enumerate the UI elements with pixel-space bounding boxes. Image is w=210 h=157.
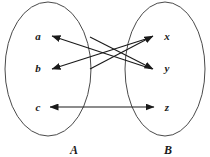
element-label-a: a xyxy=(35,31,41,42)
element-label-c: c xyxy=(36,102,41,113)
set-label-A: A xyxy=(70,144,78,156)
element-label-y: y xyxy=(165,63,170,74)
element-label-x: x xyxy=(164,31,170,42)
set-mapping-diagram: a b c x y z A B xyxy=(0,0,210,157)
set-ellipse-A xyxy=(5,2,91,136)
set-label-B: B xyxy=(164,144,172,156)
mapping-arrows xyxy=(50,36,154,107)
diagram-canvas xyxy=(0,0,210,157)
element-label-b: b xyxy=(35,63,41,74)
element-label-z: z xyxy=(165,102,169,113)
